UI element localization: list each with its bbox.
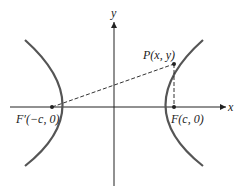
point-p-dot: [172, 62, 176, 66]
x-axis-label: x: [228, 101, 233, 113]
focal-segment-left: [52, 64, 174, 107]
hyperbola-diagram: [0, 0, 239, 193]
left-focus-dot: [50, 105, 54, 109]
left-branch: [25, 40, 63, 166]
right-focus-label: F(c, 0): [171, 113, 204, 125]
right-focus-dot: [172, 105, 176, 109]
point-p-label: P(x, y): [143, 49, 175, 61]
y-axis-label: y: [111, 7, 116, 19]
left-focus-label: F′(−c, 0): [16, 113, 59, 125]
